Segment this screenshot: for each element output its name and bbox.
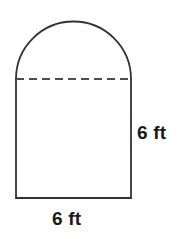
figure-canvas bbox=[0, 0, 184, 239]
width-dimension-label: 6 ft bbox=[52, 209, 81, 228]
geometry-figure: 6 ft 6 ft bbox=[0, 0, 184, 239]
rectangle-body-path bbox=[16, 79, 131, 198]
semicircle-arch-path bbox=[16, 22, 131, 79]
height-dimension-label: 6 ft bbox=[137, 123, 166, 142]
